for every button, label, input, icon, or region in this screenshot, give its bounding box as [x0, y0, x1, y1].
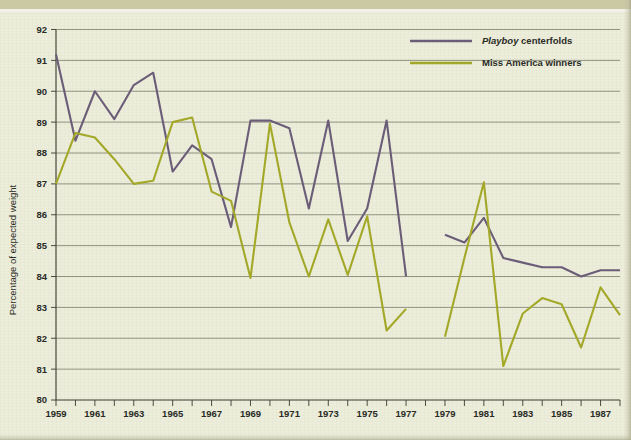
y-tick-label-81: 81 [36, 364, 47, 375]
series-line-playboy-centerfolds-b [445, 218, 620, 277]
x-tick-label-1959: 1959 [45, 408, 66, 419]
x-tick-label-1963: 1963 [123, 408, 144, 419]
page-edge-bottom [0, 434, 631, 440]
data-series-group [56, 54, 620, 366]
y-tick-label-84: 84 [36, 271, 47, 282]
y-tick-label-90: 90 [36, 86, 47, 97]
y-tick-label-80: 80 [36, 394, 47, 405]
chart-legend: Playboy centerfoldsMiss America winners [410, 35, 581, 68]
x-tick-label-1977: 1977 [395, 408, 416, 419]
x-tick-label-1969: 1969 [240, 408, 261, 419]
x-tick-label-1973: 1973 [318, 408, 339, 419]
x-tick-label-1971: 1971 [279, 408, 301, 419]
legend-label-miss-america-winners: Miss America winners [482, 57, 581, 68]
y-tick-label-87: 87 [36, 178, 47, 189]
y-tick-label-83: 83 [36, 302, 47, 313]
x-tick-label-1981: 1981 [473, 408, 495, 419]
x-tick-label-1967: 1967 [201, 408, 222, 419]
y-tick-label-86: 86 [36, 209, 47, 220]
series-line-playboy-centerfolds-a [56, 54, 406, 276]
y-tick-label-92: 92 [36, 24, 47, 35]
y-tick-label-88: 88 [36, 147, 47, 158]
y-tick-group [51, 30, 56, 401]
x-tick-label-1985: 1985 [551, 408, 573, 419]
y-tick-label-82: 82 [36, 333, 47, 344]
x-tick-label-1965: 1965 [162, 408, 184, 419]
y-tick-label-89: 89 [36, 117, 47, 128]
y-axis-title: Percentage of expected weight [7, 184, 18, 315]
x-tick-label-1983: 1983 [512, 408, 533, 419]
x-tick-label-1987: 1987 [590, 408, 611, 419]
x-tick-label-1975: 1975 [357, 408, 379, 419]
y-tick-labels: 80818283848586878889909192 [36, 24, 47, 406]
y-tick-label-85: 85 [36, 240, 47, 251]
figure-page: 80818283848586878889909192 1959196119631… [0, 0, 631, 440]
page-edge-right [624, 0, 631, 440]
x-tick-label-1961: 1961 [84, 408, 106, 419]
x-tick-label-1979: 1979 [434, 408, 455, 419]
x-tick-labels: 1959196119631965196719691971197319751977… [45, 408, 611, 419]
line-chart: 80818283848586878889909192 1959196119631… [0, 0, 631, 440]
y-tick-label-91: 91 [36, 55, 47, 66]
legend-label-playboy-centerfolds: Playboy centerfolds [482, 35, 572, 46]
x-tick-group [56, 400, 620, 406]
